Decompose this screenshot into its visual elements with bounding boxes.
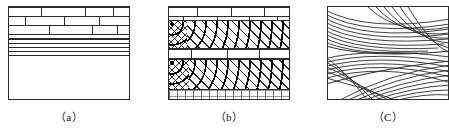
brick-unit-a xyxy=(9,7,129,38)
lithology-figure: （a） （b） xyxy=(0,0,449,134)
cross-bedding-unit-c xyxy=(328,7,448,99)
crosshatch-margin-upper-b xyxy=(169,21,187,48)
hatch-dots-upper-b xyxy=(169,20,289,48)
brick-unit-upper-b xyxy=(169,7,289,20)
panel-b-caption: （b） xyxy=(168,108,290,124)
panel-a-caption: （a） xyxy=(8,108,130,124)
panel-c xyxy=(327,6,449,100)
crosshatch-margin-lower-b xyxy=(169,60,189,89)
panel-c-caption: （C） xyxy=(327,108,449,124)
stipple-unit-a xyxy=(9,55,129,99)
brick-unit-middle-b xyxy=(169,48,289,59)
cross-bedding-arcs xyxy=(328,7,448,99)
hatch-dots-lower-b xyxy=(169,59,289,89)
panel-b xyxy=(168,6,290,100)
laminated-unit-a xyxy=(9,38,129,55)
panel-a xyxy=(8,6,130,100)
marl-unit-basal-b xyxy=(169,89,289,99)
